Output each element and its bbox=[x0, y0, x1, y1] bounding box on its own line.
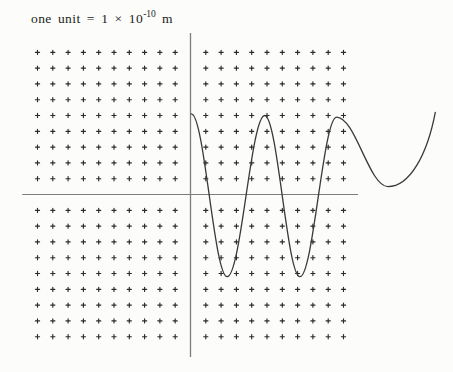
graph-svg bbox=[0, 0, 453, 372]
figure-page: one unit = 1 × 10-10 m bbox=[0, 0, 453, 372]
